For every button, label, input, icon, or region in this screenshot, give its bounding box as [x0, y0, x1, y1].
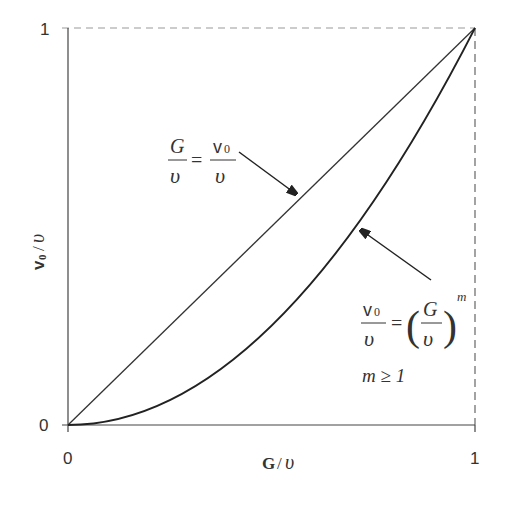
- svg-text:0: 0: [36, 254, 48, 260]
- y-tick-1: 1: [40, 20, 49, 39]
- svg-text:υ: υ: [364, 326, 374, 351]
- svg-text:υ: υ: [423, 326, 433, 351]
- svg-text:v: v: [363, 300, 372, 320]
- x-axis-label: G / υ: [262, 451, 294, 473]
- svg-text:υ: υ: [215, 163, 225, 188]
- svg-text:v: v: [29, 260, 48, 270]
- series-linear: [68, 28, 475, 425]
- svg-text:G: G: [170, 135, 185, 157]
- svg-text:υ: υ: [170, 163, 180, 188]
- svg-text:υ: υ: [285, 451, 294, 473]
- svg-text:/: /: [29, 246, 48, 251]
- svg-text:0: 0: [374, 305, 380, 319]
- x-tick-0: 0: [63, 449, 72, 468]
- svg-text:G: G: [423, 298, 438, 320]
- svg-text:m ≥ 1: m ≥ 1: [362, 365, 405, 386]
- arrow-linear: [239, 152, 296, 194]
- svg-text:(: (: [406, 303, 420, 350]
- svg-text:): ): [443, 303, 457, 350]
- chart: 1 0 0 1 G / υ v 0 / υ G υ = v 0 υ v 0 υ …: [0, 0, 505, 505]
- x-tick-1: 1: [470, 449, 479, 468]
- svg-text:m: m: [457, 289, 466, 304]
- arrow-power: [361, 230, 431, 280]
- y-axis-label: v 0 / υ: [26, 234, 48, 270]
- svg-text:G: G: [262, 454, 275, 473]
- svg-text:/: /: [277, 454, 282, 473]
- svg-text:v: v: [213, 137, 222, 157]
- svg-text:0: 0: [224, 142, 230, 156]
- y-tick-0: 0: [39, 416, 48, 435]
- svg-text:=: =: [191, 149, 202, 171]
- svg-text:υ: υ: [26, 234, 48, 243]
- annotation-power-equation: v 0 υ = ( G υ ) m m ≥ 1: [361, 289, 466, 386]
- annotation-linear-equation: G υ = v 0 υ: [168, 135, 236, 188]
- svg-text:=: =: [391, 312, 402, 334]
